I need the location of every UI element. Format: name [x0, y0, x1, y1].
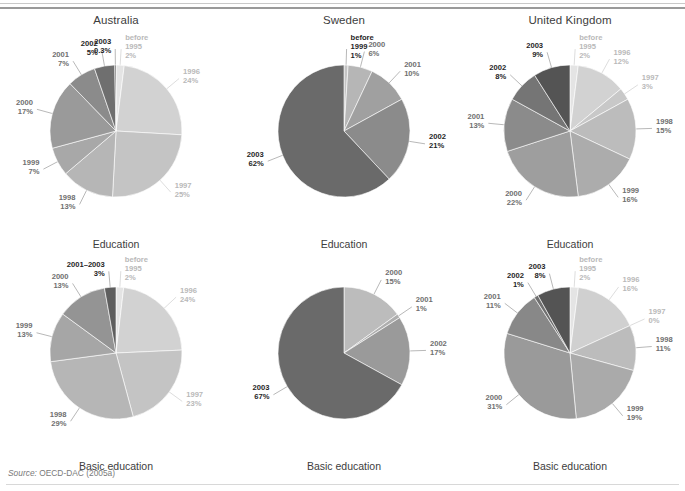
pie-slice-label: 19973%: [642, 73, 659, 91]
source-label: Source:: [8, 468, 37, 478]
pie-slice-label: 199811%: [656, 335, 673, 353]
pie-slice-label: 200017%: [16, 98, 33, 116]
label-leader-line: [547, 52, 552, 69]
source-note: Source: OECD-DAC (2005a): [8, 468, 115, 478]
pie-slice-label: 199813%: [59, 193, 76, 211]
pie-slice-label: 199919%: [627, 404, 644, 422]
label-leader-line: [549, 274, 554, 291]
label-leader-line: [397, 307, 412, 317]
pie-slice-label: 199829%: [50, 410, 67, 428]
pie-slice-label: before19952%: [579, 33, 602, 60]
label-leader-line: [528, 283, 537, 298]
label-leader-line: [43, 161, 59, 169]
label-leader-line: [73, 61, 82, 76]
label-leader-line: [488, 123, 506, 125]
column-title-united-kingdom: United Kingdom: [456, 14, 684, 26]
header-rule-thin: [0, 3, 685, 4]
pie-slice-label: 199725%: [175, 181, 192, 199]
pie-slice-label: 200110%: [404, 60, 422, 78]
pie-slice-label: 199913%: [16, 321, 33, 339]
label-leader-line: [159, 179, 171, 192]
label-leader-line: [388, 71, 400, 84]
label-leader-line: [623, 85, 638, 95]
pie-chart-sweden-education: before19991%20006%200110%200221%200362%E…: [230, 34, 458, 252]
column-title-australia: Australia: [2, 14, 230, 26]
label-leader-line: [608, 287, 619, 301]
chart-caption: Basic education: [230, 460, 458, 472]
label-leader-line: [109, 271, 111, 289]
pie-slice-label: 20021%: [507, 271, 524, 289]
pie-chart-australia-education: before19952%199624%199725%199813%19997%2…: [2, 34, 230, 252]
pie-chart-australia-basic-education: before19952%199624%199723%199829%199913%…: [2, 256, 230, 474]
pie-svg: before19952%199624%199723%199829%199913%…: [2, 256, 230, 474]
label-leader-line: [120, 271, 121, 289]
pie-slice-label: 20006%: [368, 40, 385, 58]
label-leader-line: [407, 141, 425, 144]
pie-slice-label: 2001–20033%: [67, 260, 105, 278]
label-leader-line: [37, 333, 54, 337]
pie-slice-label: 200031%: [485, 393, 502, 411]
pie-slice-label: 199815%: [656, 117, 673, 135]
pie-slice-label: 20017%: [52, 50, 70, 68]
pie-slice-label: 20030.3%: [94, 37, 112, 55]
pie-slice-label: 199624%: [180, 286, 197, 304]
label-leader-line: [506, 393, 520, 404]
label-leader-line: [608, 183, 619, 198]
label-leader-line: [611, 402, 623, 416]
pie-slice-label: before19952%: [579, 255, 602, 282]
label-leader-line: [634, 347, 652, 348]
pie-slice-label: 19997%: [23, 158, 40, 176]
pie-slice-label: 200362%: [247, 150, 264, 168]
pie-slice-label: before19952%: [125, 33, 148, 60]
pie-slice-label: 200217%: [430, 339, 447, 357]
pie-slice: [116, 287, 182, 353]
label-leader-line: [505, 303, 519, 314]
pie-slice-label: 200015%: [385, 268, 402, 286]
label-leader-line: [268, 155, 285, 162]
pie-svg: 200015%20011%200217%200367%: [230, 256, 458, 474]
pie-slice-label: 20038%: [529, 262, 546, 280]
label-leader-line: [574, 49, 575, 67]
pie-slice-label: 199916%: [622, 186, 639, 204]
pie-slice-label: 200022%: [505, 189, 522, 207]
pie-slice-label: 200221%: [429, 132, 446, 150]
label-leader-line: [165, 79, 179, 91]
label-leader-line: [273, 386, 288, 395]
pie-slice-label: 200013%: [52, 272, 69, 290]
label-leader-line: [601, 59, 610, 75]
label-leader-line: [80, 188, 88, 204]
chart-caption: Education: [2, 238, 230, 250]
pie-slice-label: 200367%: [253, 383, 270, 401]
chart-caption: Basic education: [456, 460, 684, 472]
pie-slice-label: before19952%: [125, 255, 148, 282]
pie-slice-label: 200113%: [467, 112, 485, 130]
label-leader-line: [346, 49, 347, 67]
pie-svg: before19952%199616%19970%199811%199919%2…: [456, 256, 684, 474]
label-leader-line: [168, 391, 183, 402]
pie-slice-label: 19970%: [649, 307, 666, 325]
pie-slice-label: 199612%: [614, 48, 631, 66]
pie-slice-label: 20011%: [416, 295, 434, 313]
pie-chart-uk-education: before19952%199612%19973%199815%199916%2…: [456, 34, 684, 252]
pie-slice-label: 20028%: [489, 63, 506, 81]
chart-caption: Education: [230, 238, 458, 250]
pie-slice-label: 199723%: [186, 390, 203, 408]
label-leader-line: [71, 406, 81, 421]
pie-slice: [116, 66, 182, 135]
label-leader-line: [510, 75, 523, 87]
pie-slice-label: 200111%: [484, 292, 502, 310]
source-value: OECD-DAC (2005a): [39, 468, 115, 478]
label-leader-line: [163, 297, 176, 309]
label-leader-line: [574, 271, 575, 289]
pie-svg: before19952%199612%19973%199815%199916%2…: [456, 34, 684, 252]
pie-slice: [112, 131, 181, 197]
pie-slice-label: 20039%: [526, 41, 543, 59]
chart-caption: Education: [456, 238, 684, 250]
pie-chart-sweden-basic-education: 200015%20011%200217%200367%Basic educati…: [230, 256, 458, 474]
label-leader-line: [73, 283, 83, 298]
label-leader-line: [373, 280, 381, 296]
label-leader-line: [120, 49, 121, 67]
pie-svg: before19952%199624%199725%199813%19997%2…: [2, 34, 230, 252]
footer-rule: [6, 484, 679, 485]
pie-svg: before19991%20006%200110%200221%200362%: [230, 34, 458, 252]
